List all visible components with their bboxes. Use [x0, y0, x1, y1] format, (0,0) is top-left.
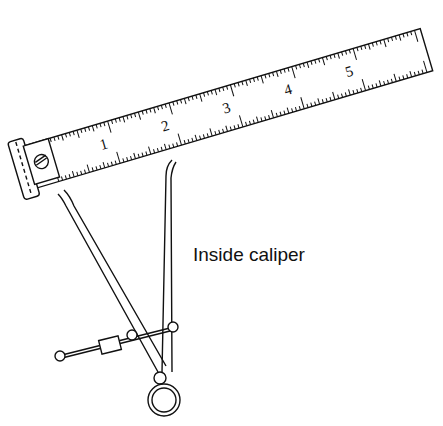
inside-caliper-diagram: 12345: [0, 0, 443, 426]
ruler: 12345: [18, 29, 433, 190]
caption-label: Inside caliper: [193, 244, 305, 266]
diagram-svg: 12345: [0, 0, 443, 426]
caliper: [55, 160, 180, 416]
